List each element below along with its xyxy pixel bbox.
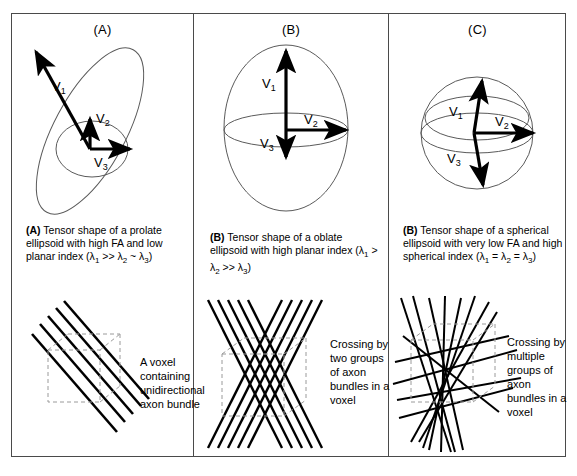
panel-a-end: ) <box>149 250 153 262</box>
v3-label: V3 <box>260 136 274 153</box>
v2-label: V2 <box>495 114 509 131</box>
panel-b-bottom-label: Crossing by two groups of axon bundles i… <box>330 337 392 407</box>
panel-c-bottom-label: Crossing by multiple groups of axon bund… <box>507 335 569 419</box>
v3-label: V3 <box>447 151 461 168</box>
v3-arrow <box>474 133 483 185</box>
v1-label: V1 <box>449 104 463 121</box>
panel-b-caption-text: Tensor shape of a oblate ellipsoid with … <box>210 231 364 256</box>
panel-a-bottom-label: A voxel containing unidirectional axon b… <box>140 355 200 411</box>
axon-bundle-left-leaning <box>208 300 322 448</box>
v3-label: V3 <box>94 155 108 172</box>
spherical-ellipsoid-diagram: V1 V2 V3 <box>389 33 566 228</box>
panel-c: (C) V1 V2 V3 (B) Tensor shape of a spher… <box>389 13 566 457</box>
prolate-ellipsoid-diagram: V1 V2 V3 <box>12 33 193 228</box>
panel-b-mid2: >> λ <box>220 261 243 273</box>
axon-lines <box>393 296 521 452</box>
panel-c-caption-tag: (B) <box>403 224 418 236</box>
panel-b-caption: (B) Tensor shape of a oblate ellipsoid w… <box>210 231 382 278</box>
v1-label: V1 <box>52 79 66 96</box>
v1-arrow <box>474 81 482 133</box>
panel-a-caption-tag: (A) <box>26 224 41 236</box>
v1-label: V1 <box>262 76 276 93</box>
panel-b: (B) V1 V2 V3 (B) Tensor shape of a oblat… <box>194 13 388 457</box>
tensor-shape-figure: (A) V1 V2 V3 (A) Tensor shape of a prola… <box>0 0 577 476</box>
panel-c-caption-text: Tensor shape of a spherical ellipsoid wi… <box>403 224 562 262</box>
panel-a-mid2: ~ λ <box>127 250 144 262</box>
panel-b-caption-tag: (B) <box>210 231 225 243</box>
oblate-ellipsoid-diagram: V1 V2 V3 <box>194 33 388 228</box>
panel-b-end: ) <box>248 261 252 273</box>
panel-c-end: ) <box>533 250 537 262</box>
panel-a-mid: >> λ <box>99 250 122 262</box>
panel-c-mid: = λ <box>489 250 506 262</box>
axon-lines <box>32 301 149 432</box>
panel-c-mid2: = λ <box>511 250 528 262</box>
panel-c-caption: (B) Tensor shape of a spherical ellipsoi… <box>403 224 565 267</box>
v2-label: V2 <box>96 111 110 128</box>
v1-arrow <box>36 52 90 149</box>
panel-a: (A) V1 V2 V3 (A) Tensor shape of a prola… <box>12 13 193 457</box>
panel-a-caption: (A) Tensor shape of a prolate ellipsoid … <box>26 224 194 267</box>
